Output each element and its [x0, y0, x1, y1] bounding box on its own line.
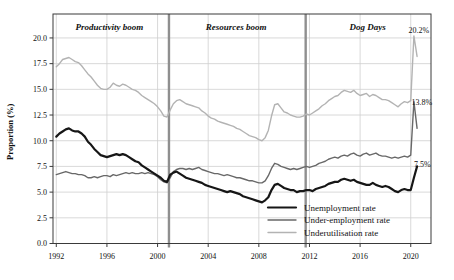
y-tick-label: 7.5: [37, 162, 47, 171]
y-tick-label: 12.5: [33, 111, 47, 120]
x-tick-label: 2020: [403, 252, 419, 261]
legend-label-under-employment-rate: Under-employment rate: [304, 215, 390, 225]
x-tick-label: 2008: [251, 252, 267, 261]
line-chart: 199219962000200420082012201620200.02.55.…: [0, 0, 454, 280]
y-tick-label: 2.5: [37, 214, 47, 223]
legend-label-underutilisation-rate: Underutilisation rate: [304, 228, 378, 238]
y-tick-label: 15.0: [33, 85, 47, 94]
x-tick-label: 2000: [150, 252, 166, 261]
y-tick-label: 17.5: [33, 59, 47, 68]
y-axis-title: Proportion (%): [5, 103, 15, 159]
x-tick-label: 1992: [48, 252, 64, 261]
chart-figure: 199219962000200420082012201620200.02.55.…: [0, 0, 454, 280]
period-label: Productivity boom: [76, 22, 144, 32]
x-tick-label: 2012: [301, 252, 317, 261]
x-tick-label: 1996: [99, 252, 115, 261]
period-label: Dog Days: [349, 22, 387, 32]
y-tick-label: 20.0: [33, 34, 47, 43]
y-tick-label: 10.0: [33, 137, 47, 146]
legend-label-unemployment-rate: Unemployment rate: [304, 203, 376, 213]
annotation-label: 7.5%: [414, 160, 431, 169]
annotation-label: 13.8%: [411, 98, 432, 107]
y-tick-label: 0.0: [37, 239, 47, 248]
y-tick-label: 5.0: [37, 188, 47, 197]
x-tick-label: 2016: [352, 252, 368, 261]
figure-background: [0, 0, 454, 280]
annotation-label: 20.2%: [408, 26, 429, 35]
period-label: Resources boom: [205, 22, 267, 32]
x-tick-label: 2004: [200, 252, 216, 261]
